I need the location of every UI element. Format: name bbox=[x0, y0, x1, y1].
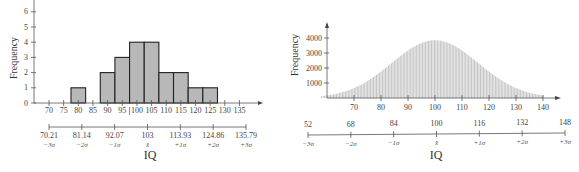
y-tick-label: 2000 bbox=[306, 64, 322, 73]
x-tick-label: 80 bbox=[377, 103, 385, 112]
x-tick-label: 100 bbox=[429, 103, 441, 112]
y-tick-label: 2 bbox=[24, 68, 28, 77]
sigma-value-label: 103 bbox=[142, 131, 154, 140]
x-axis-label: IQ bbox=[430, 148, 443, 162]
sigma-label: +3σ bbox=[559, 138, 571, 146]
y-tick-label: 3 bbox=[24, 53, 28, 62]
sigma-value-label: 70.21 bbox=[40, 131, 58, 140]
y-tick-label: 1000 bbox=[306, 79, 322, 88]
x-tick-label: 120 bbox=[190, 106, 202, 115]
iq-histograms-figure: 0123456707580859095100105110115120125130… bbox=[0, 0, 579, 172]
x-tick-label: 135 bbox=[233, 106, 245, 115]
x-tick-label: 115 bbox=[175, 106, 187, 115]
sigma-label: −1σ bbox=[388, 139, 400, 147]
x-axis-arrow-icon bbox=[258, 101, 263, 105]
sigma-label: +1σ bbox=[174, 141, 186, 149]
right-histogram: 1000200030004000708090100110120130140Fre… bbox=[289, 22, 571, 162]
sigma-value-label: 148 bbox=[559, 118, 571, 127]
x-tick-label: 85 bbox=[89, 106, 97, 115]
y-tick-label: 0 bbox=[24, 99, 28, 108]
y-tick-label: 1 bbox=[24, 83, 28, 92]
sigma-label: −3σ bbox=[43, 141, 55, 149]
sigma-label: −2σ bbox=[345, 140, 357, 148]
x-tick-label: 105 bbox=[146, 106, 158, 115]
sigma-value-label: 124.86 bbox=[202, 131, 224, 140]
sigma-value-label: 135.79 bbox=[235, 131, 257, 140]
x-tick-label: 90 bbox=[404, 103, 412, 112]
histogram-bar bbox=[115, 57, 130, 103]
sigma-value-label: 52 bbox=[304, 120, 312, 129]
histogram-bar bbox=[159, 73, 174, 103]
sigma-label: −2σ bbox=[76, 141, 88, 149]
histogram-bar bbox=[100, 73, 115, 103]
x-tick-label: 95 bbox=[118, 106, 126, 115]
x-tick-label: 80 bbox=[74, 106, 82, 115]
y-tick-label: 6 bbox=[24, 7, 28, 16]
x-tick-label: 90 bbox=[104, 106, 112, 115]
x-tick-label: 75 bbox=[60, 106, 68, 115]
y-axis-arrow-icon bbox=[325, 22, 329, 28]
sigma-value-label: 84 bbox=[390, 119, 398, 128]
histogram-bar bbox=[174, 73, 189, 103]
x-tick-label: 140 bbox=[537, 103, 549, 112]
x-tick-label: 70 bbox=[45, 106, 53, 115]
sigma-label: +1σ bbox=[473, 139, 485, 147]
histogram-bar bbox=[144, 42, 159, 103]
x-tick-label: 120 bbox=[483, 103, 495, 112]
x-tick-label: 125 bbox=[204, 106, 216, 115]
sigma-label: +2σ bbox=[207, 141, 219, 149]
y-axis-label: Frequency bbox=[289, 34, 300, 76]
sigma-value-label: 100 bbox=[431, 119, 443, 128]
sigma-value-label: 116 bbox=[473, 119, 485, 128]
x-tick-label: 110 bbox=[456, 103, 468, 112]
y-tick-label: 3000 bbox=[306, 49, 322, 58]
sigma-value-label: 81.14 bbox=[73, 131, 91, 140]
sigma-label: −1σ bbox=[109, 141, 121, 149]
x-axis-arrow-icon bbox=[555, 96, 561, 100]
y-axis-label: Frequency bbox=[8, 37, 19, 79]
y-tick-label: 5 bbox=[24, 23, 28, 32]
sigma-value-label: 92.07 bbox=[106, 131, 124, 140]
y-tick-label: 4000 bbox=[306, 34, 322, 43]
x-tick-label: 100 bbox=[131, 106, 143, 115]
x-axis-label: IQ bbox=[144, 148, 157, 162]
sigma-label: +3σ bbox=[240, 141, 252, 149]
x-tick-label: 130 bbox=[219, 106, 231, 115]
y-tick-label: 4 bbox=[24, 38, 28, 47]
left-histogram: 0123456707580859095100105110115120125130… bbox=[8, 0, 263, 162]
x-tick-label: 70 bbox=[350, 103, 358, 112]
sigma-label: +2σ bbox=[516, 138, 528, 146]
sigma-label: x̄ bbox=[434, 139, 439, 147]
sigma-value-label: 113.93 bbox=[169, 131, 191, 140]
sigma-value-label: 132 bbox=[516, 118, 528, 127]
sigma-label: −3σ bbox=[302, 140, 314, 148]
x-tick-label: 130 bbox=[510, 103, 522, 112]
sigma-value-label: 68 bbox=[347, 120, 355, 129]
histogram-bar bbox=[130, 42, 145, 103]
x-tick-label: 110 bbox=[160, 106, 172, 115]
